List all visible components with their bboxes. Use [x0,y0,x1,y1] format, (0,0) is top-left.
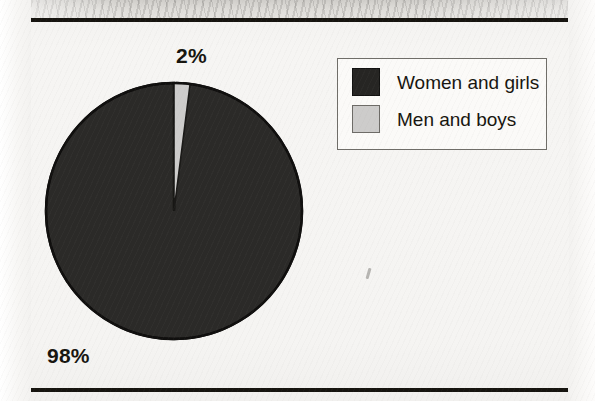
figure-canvas: 2% 98% Women and girls Men and boys [0,0,595,401]
chart-plot-area: 2% 98% Women and girls Men and boys [31,22,568,388]
scan-texture-fade [31,0,568,19]
legend-label-men-and-boys: Men and boys [397,110,516,129]
pie-chart [43,80,305,342]
legend-swatch-women-and-girls [352,68,380,96]
figure-bottom-rule [31,388,568,392]
pie-chart-svg [43,80,305,342]
scan-stray-mark [366,268,372,279]
pie-label-men-and-boys: 2% [176,44,207,68]
paper-right-margin [569,0,595,401]
legend-swatch-men-and-boys [352,105,380,133]
legend-item-women-and-girls[interactable]: Women and girls [352,68,539,96]
pie-label-women-and-girls: 98% [47,344,90,368]
legend-item-men-and-boys[interactable]: Men and boys [352,105,516,133]
paper-left-margin [0,0,31,401]
legend-label-women-and-girls: Women and girls [397,73,539,92]
chart-legend: Women and girls Men and boys [337,58,547,150]
